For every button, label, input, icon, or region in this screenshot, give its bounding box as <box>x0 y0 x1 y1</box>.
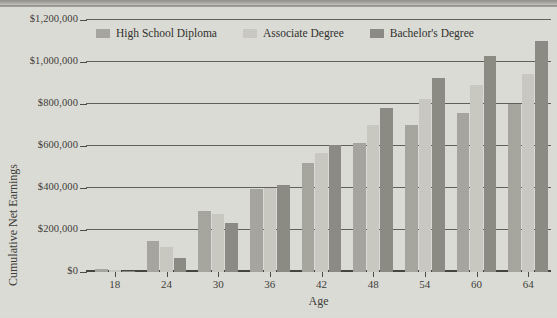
y-axis-tick-label: $1,000,000 <box>0 55 78 66</box>
bar-group <box>457 20 497 272</box>
x-axis-tick-label: 42 <box>307 278 337 290</box>
bar <box>484 56 497 272</box>
x-axis: 182430364248546064 Age <box>86 272 551 318</box>
x-axis-tick-mark <box>373 272 374 277</box>
x-axis-tick-label: 54 <box>410 278 440 290</box>
y-axis-tick-label: $600,000 <box>0 139 78 150</box>
chart-page: Cumulative Net Earnings $0$200,000$400,0… <box>0 0 557 318</box>
y-axis-tick-label: $1,200,000 <box>0 13 78 24</box>
bar-group <box>95 20 135 272</box>
chart-legend: High School DiplomaAssociate DegreeBache… <box>96 27 474 39</box>
bar <box>367 125 380 272</box>
x-axis-tick-mark <box>322 272 323 277</box>
x-axis-tick-mark <box>167 272 168 277</box>
bar <box>198 211 211 272</box>
bar-group <box>353 20 393 272</box>
bar <box>508 104 521 272</box>
bar <box>380 108 393 272</box>
plot-area <box>86 20 551 272</box>
x-axis-tick-label: 36 <box>255 278 285 290</box>
legend-swatch-icon <box>370 29 384 38</box>
x-axis-tick-label: 60 <box>462 278 492 290</box>
bar <box>264 188 277 272</box>
bar <box>212 214 225 272</box>
legend-label: Bachelor's Degree <box>390 27 474 39</box>
bar-group <box>250 20 290 272</box>
bar <box>419 99 432 272</box>
bar <box>353 143 366 272</box>
bar-group <box>198 20 238 272</box>
x-axis-tick-mark <box>528 272 529 277</box>
legend-item[interactable]: Bachelor's Degree <box>370 27 474 39</box>
bar <box>174 258 187 272</box>
scan-band-top-line <box>0 5 557 7</box>
bar <box>522 74 535 272</box>
bar <box>225 223 238 272</box>
bar <box>405 125 418 272</box>
bar <box>329 145 342 272</box>
legend-swatch-icon <box>243 29 257 38</box>
x-axis-tick-mark <box>425 272 426 277</box>
x-axis-tick-label: 18 <box>100 278 130 290</box>
legend-item[interactable]: High School Diploma <box>96 27 217 39</box>
x-axis-tick-mark <box>115 272 116 277</box>
bar <box>432 78 445 272</box>
bar <box>277 185 290 272</box>
x-axis-tick-mark <box>270 272 271 277</box>
x-axis-tick-label: 48 <box>358 278 388 290</box>
bar-group <box>508 20 548 272</box>
legend-label: Associate Degree <box>263 27 344 39</box>
x-axis-tick-mark <box>218 272 219 277</box>
bar <box>160 247 173 272</box>
bar <box>535 41 548 272</box>
x-axis-tick-mark <box>477 272 478 277</box>
x-axis-tick-label: 30 <box>203 278 233 290</box>
bar <box>147 241 160 273</box>
legend-label: High School Diploma <box>116 27 217 39</box>
bar <box>457 113 470 272</box>
x-axis-tick-label: 64 <box>513 278 543 290</box>
legend-swatch-icon <box>96 29 110 38</box>
y-axis-tick-label: $200,000 <box>0 223 78 234</box>
bar <box>315 153 328 272</box>
bar <box>470 85 483 272</box>
bar-group <box>147 20 187 272</box>
y-axis-tick-label: $800,000 <box>0 97 78 108</box>
legend-item[interactable]: Associate Degree <box>243 27 344 39</box>
bar <box>302 163 315 272</box>
bar-group <box>302 20 342 272</box>
x-axis-title: Age <box>86 294 551 309</box>
x-axis-tick-label: 24 <box>152 278 182 290</box>
y-axis-tick-label: $0 <box>0 265 78 276</box>
bar <box>250 189 263 272</box>
bar-group <box>405 20 445 272</box>
y-axis-tick-label: $400,000 <box>0 181 78 192</box>
